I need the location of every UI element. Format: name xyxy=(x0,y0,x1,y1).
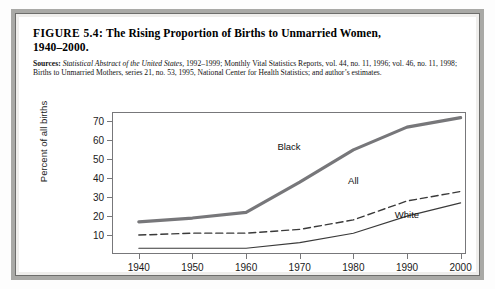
series-label-black: Black xyxy=(277,141,300,152)
figure-outer-border: FIGURE 5.4: The Rising Proportion of Bir… xyxy=(11,9,484,280)
figure-title-line1: The Rising Proportion of Births to Unmar… xyxy=(106,27,381,39)
figure-panel: FIGURE 5.4: The Rising Proportion of Bir… xyxy=(19,17,476,272)
figure-mid-border: FIGURE 5.4: The Rising Proportion of Bir… xyxy=(15,13,480,276)
figure-page: FIGURE 5.4: The Rising Proportion of Bir… xyxy=(0,0,495,289)
sources-italic-title: Statistical Abstract of the United State… xyxy=(63,59,184,68)
figure-number: FIGURE 5.4: xyxy=(33,27,103,39)
sources-label: Sources: xyxy=(33,59,61,68)
figure-title: FIGURE 5.4: The Rising Proportion of Bir… xyxy=(33,26,451,54)
series-label-all: All xyxy=(348,175,359,186)
series-line-black xyxy=(139,118,461,222)
figure-sources: Sources: Statistical Abstract of the Uni… xyxy=(33,59,457,77)
line-chart: Percent of all births 10203040506070 194… xyxy=(19,89,476,272)
series-lines xyxy=(19,89,476,272)
figure-title-line2: 1940–2000. xyxy=(33,41,89,53)
series-label-white: White xyxy=(395,209,419,220)
